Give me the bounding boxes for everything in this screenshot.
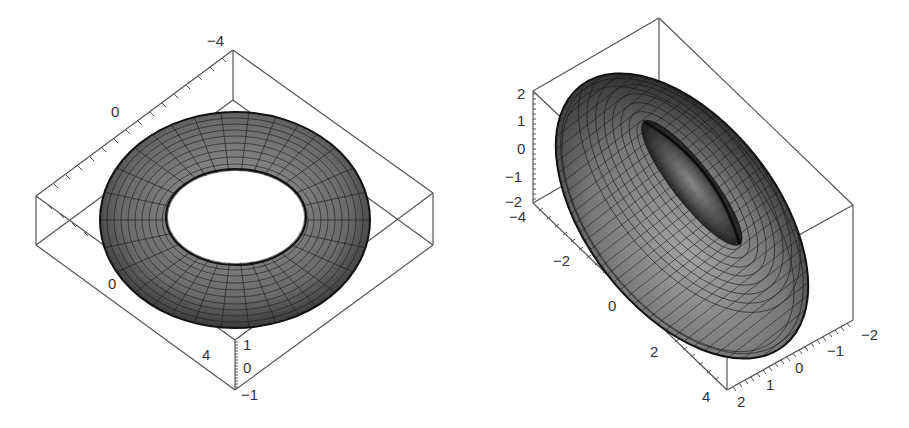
right-x-label-m4: −4 [509, 208, 526, 225]
left-label-zm1: −1 [241, 386, 258, 403]
right-y-label-0: 0 [795, 359, 803, 376]
left-label-z0: 0 [243, 359, 251, 376]
right-z-label-m1: −1 [505, 168, 522, 185]
right-z-label-0: 0 [517, 140, 525, 157]
right-y-label-m2: −2 [861, 326, 878, 343]
right-x-label-m2: −2 [553, 252, 570, 269]
right-y-label-m1: −1 [827, 342, 844, 359]
left-torus-surface [100, 112, 370, 328]
right-y-label-1: 1 [766, 376, 774, 393]
left-label-lower-zero: 0 [108, 275, 116, 292]
right-y-label-2: 2 [737, 393, 745, 410]
right-x-label-0: 0 [608, 297, 616, 314]
right-plot-canvas: 2 1 0 −1 −2 −4 −2 0 2 4 2 1 0 −1 −2 [450, 0, 909, 428]
right-z-label-1: 1 [517, 112, 525, 129]
right-x-label-4: 4 [702, 388, 710, 405]
left-torus-plot: −4 0 0 4 1 0 −1 [0, 0, 450, 428]
left-label-top: −4 [207, 32, 224, 49]
left-label-z1: 1 [243, 336, 251, 353]
left-plot-canvas: −4 0 0 4 1 0 −1 [0, 0, 450, 428]
right-torus-surface [499, 19, 865, 408]
right-x-label-2: 2 [650, 343, 658, 360]
left-label-front: 4 [202, 346, 210, 363]
left-label-upper-zero: 0 [111, 103, 119, 120]
right-torus-plot: 2 1 0 −1 −2 −4 −2 0 2 4 2 1 0 −1 −2 [450, 0, 909, 428]
right-z-label-2: 2 [517, 85, 525, 102]
